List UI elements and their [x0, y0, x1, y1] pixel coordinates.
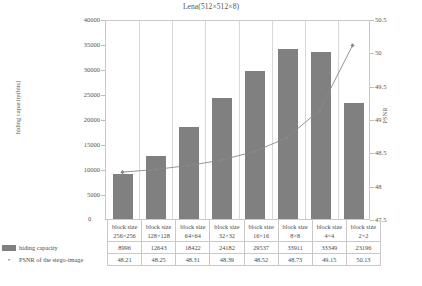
right-axis-tick-label: 49.5 — [375, 83, 405, 90]
table-cell-value: 23196 — [346, 242, 380, 254]
table-column-header: block size16×16 — [244, 220, 278, 242]
left-axis-tick-label: 10000 — [58, 166, 100, 173]
table-cell-value: 49.15 — [312, 254, 346, 266]
plot-area — [105, 20, 370, 220]
right-axis-tick-mark — [370, 187, 374, 188]
block-size-label-line1: block size — [214, 223, 239, 230]
table-cell-value: 18422 — [176, 242, 210, 254]
right-axis-tick-mark — [370, 120, 374, 121]
table-cell-value: 48.21 — [108, 254, 142, 266]
left-axis-title: hiding capacity(bits) — [14, 58, 21, 158]
right-axis-tick-label: 48.5 — [375, 149, 405, 156]
legend-label: hiding capacity — [19, 245, 58, 252]
line-series — [106, 21, 369, 219]
block-size-label-line1: block size — [146, 223, 171, 230]
table-cell-value: 33349 — [312, 242, 346, 254]
block-size-label-line1: block size — [283, 223, 308, 230]
left-axis-tick-label: 30000 — [58, 66, 100, 73]
psnr-marker — [186, 163, 190, 167]
block-size-label-line2: 4×4 — [313, 231, 346, 240]
left-axis-tick-label: 5000 — [58, 191, 100, 198]
table-column-header: block size32×32 — [210, 220, 244, 242]
data-table: block size256×256block size128×128block … — [0, 220, 381, 266]
table-column-header: block size4×4 — [312, 220, 346, 242]
psnr-marker — [219, 158, 223, 162]
block-size-label-line1: block size — [248, 223, 273, 230]
table-cell-value: 24182 — [210, 242, 244, 254]
right-axis-tick-mark — [370, 53, 374, 54]
block-size-label-line1: block size — [180, 223, 205, 230]
psnr-marker — [252, 150, 256, 154]
right-axis-tick-label: 49 — [375, 116, 405, 123]
legend-label: PSNR of the stego-image — [19, 256, 83, 263]
legend-line-marker-icon: • — [2, 256, 16, 264]
right-axis-tick-label: 50 — [375, 49, 405, 56]
legend-bar-swatch-icon — [2, 245, 16, 251]
psnr-marker — [350, 43, 354, 47]
left-axis-tick-label: 35000 — [58, 41, 100, 48]
block-size-label-line2: 8×8 — [279, 231, 312, 240]
table-row: hiding capacity8996126431842224182295373… — [0, 242, 381, 254]
block-size-label-line2: 256×256 — [108, 231, 141, 240]
table-cell-value: 33911 — [278, 242, 312, 254]
right-axis-tick-label: 50.5 — [375, 16, 405, 23]
table-legend-spacer — [0, 220, 108, 242]
table-cell-value: 50.13 — [346, 254, 380, 266]
psnr-marker — [120, 170, 124, 174]
left-axis-tick-label: 15000 — [58, 141, 100, 148]
block-size-label-line2: 64×64 — [176, 231, 209, 240]
table-cell-value: 29537 — [244, 242, 278, 254]
right-axis-tick-mark — [370, 87, 374, 88]
table-legend-cell: •PSNR of the stego-image — [0, 254, 108, 266]
block-size-label-line2: 16×16 — [245, 231, 278, 240]
table-legend-cell: hiding capacity — [0, 242, 108, 254]
table-column-header: block size128×128 — [142, 220, 176, 242]
table-cell-value: 48.52 — [244, 254, 278, 266]
table-column-header: block size8×8 — [278, 220, 312, 242]
block-size-label-line1: block size — [351, 223, 376, 230]
psnr-line — [122, 45, 352, 172]
table-column-header: block size64×64 — [176, 220, 210, 242]
chart-container: Lena(512×512×8) 400003500030000250002000… — [0, 0, 422, 286]
table-cell-value: 8996 — [108, 242, 142, 254]
right-axis-tick-mark — [370, 153, 374, 154]
table-column-header: block size2×2 — [346, 220, 380, 242]
table-cell-value: 48.25 — [142, 254, 176, 266]
block-size-label-line2: 2×2 — [347, 231, 380, 240]
right-axis-title: PSNR — [381, 96, 388, 136]
block-size-label-line2: 128×128 — [142, 231, 175, 240]
left-axis-tick-label: 25000 — [58, 91, 100, 98]
chart-title: Lena(512×512×8) — [0, 2, 422, 11]
table-cell-value: 48.31 — [176, 254, 210, 266]
table-header-row: block size256×256block size128×128block … — [0, 220, 381, 242]
left-axis-tick-label: 20000 — [58, 116, 100, 123]
block-size-label-line1: block size — [317, 223, 342, 230]
table-cell-value: 48.39 — [210, 254, 244, 266]
table-cell-value: 12643 — [142, 242, 176, 254]
right-axis-tick-mark — [370, 20, 374, 21]
table-row: •PSNR of the stego-image48.2148.2548.314… — [0, 254, 381, 266]
table-column-header: block size256×256 — [108, 220, 142, 242]
psnr-marker — [153, 167, 157, 171]
block-size-label-line1: block size — [112, 223, 137, 230]
block-size-label-line2: 32×32 — [210, 231, 243, 240]
left-axis-tick-label: 40000 — [58, 16, 100, 23]
table-cell-value: 48.73 — [278, 254, 312, 266]
right-axis-tick-label: 48 — [375, 183, 405, 190]
